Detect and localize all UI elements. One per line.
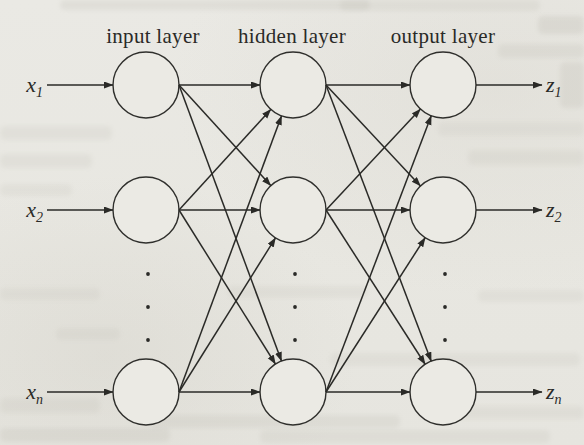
output-label-base: z — [545, 197, 555, 222]
edge-input1-hidden2 — [179, 210, 275, 364]
input-label-xn: xn — [25, 379, 43, 407]
ellipsis-dot — [293, 272, 297, 276]
ellipsis-dot — [146, 338, 150, 342]
node-output-row2 — [410, 359, 476, 425]
output-label-subscript: 1 — [555, 85, 562, 100]
output-label-subscript: 2 — [555, 210, 562, 225]
ellipsis-dot — [443, 272, 447, 276]
edge-input0-hidden1 — [179, 85, 271, 186]
node-input-row2 — [113, 359, 179, 425]
node-hidden-row0 — [260, 52, 326, 118]
ellipsis-dot — [293, 338, 297, 342]
input-label-x2: x2 — [25, 197, 43, 225]
ellipsis-dot — [146, 305, 150, 309]
output-label-base: z — [545, 379, 555, 404]
input-label-base: x — [25, 72, 36, 97]
input-label-x1: x1 — [25, 72, 43, 100]
node-hidden-row2 — [260, 359, 326, 425]
layer-label-hidden: hidden layer — [238, 24, 346, 48]
input-label-subscript: 1 — [36, 85, 43, 100]
output-label-z2: z2 — [545, 197, 562, 225]
edge-hidden1-output2 — [326, 210, 425, 364]
output-label-subscript: n — [555, 392, 562, 407]
node-input-row1 — [113, 177, 179, 243]
node-output-row0 — [410, 52, 476, 118]
ellipsis-dot — [146, 272, 150, 276]
node-output-row1 — [410, 177, 476, 243]
ellipsis-dot — [443, 305, 447, 309]
ellipsis-dot — [443, 338, 447, 342]
input-label-base: x — [25, 197, 36, 222]
edge-hidden0-output1 — [326, 85, 420, 186]
output-label-base: z — [545, 72, 555, 97]
layer-label-output: output layer — [391, 24, 496, 48]
edge-input1-hidden0 — [179, 109, 271, 210]
node-input-row0 — [113, 52, 179, 118]
ellipsis-dot — [293, 305, 297, 309]
input-label-subscript: n — [36, 392, 43, 407]
layer-label-input: input layer — [106, 24, 200, 48]
input-label-base: x — [25, 379, 36, 404]
node-hidden-row1 — [260, 177, 326, 243]
input-label-subscript: 2 — [36, 210, 43, 225]
output-label-zn: zn — [545, 379, 562, 407]
neural-network-figure: input layerhidden layeroutput layerx1x2x… — [0, 0, 584, 445]
scanned-page: input layerhidden layeroutput layerx1x2x… — [0, 0, 584, 445]
output-label-z1: z1 — [545, 72, 562, 100]
